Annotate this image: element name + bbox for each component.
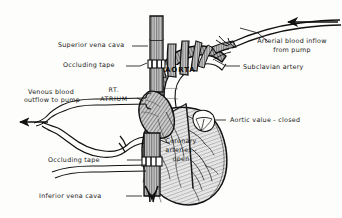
label-arterial-inflow-line1: Arterial blood inflow bbox=[248, 37, 336, 46]
figure-canvas: Superior vena cava Occluding tape Venous… bbox=[0, 0, 342, 218]
label-subclavian-artery: Subclavian artery bbox=[243, 63, 304, 72]
label-arterial-inflow-line2: from pump bbox=[248, 46, 336, 55]
label-venous-outflow-line2: outflow to pump bbox=[9, 96, 95, 105]
leader-occluding-tape-upper bbox=[126, 63, 147, 66]
venous-outflow-arrow bbox=[20, 105, 64, 134]
inferior-vena-cava-vessel bbox=[144, 133, 160, 202]
leader-subclavian-artery bbox=[215, 60, 240, 66]
venous-cannula-tubing bbox=[52, 93, 151, 178]
aortic-valve-cutaway bbox=[193, 110, 215, 131]
label-coronary-line2: arteries - bbox=[160, 146, 202, 155]
label-occluding-tape-upper: Occluding tape bbox=[63, 61, 115, 70]
label-superior-vena-cava: Superior vena cava bbox=[58, 41, 124, 50]
label-rt-atrium-line2: ATRIUM bbox=[93, 95, 135, 104]
label-coronary-line1: Coronary bbox=[160, 137, 202, 146]
label-aortic-valve-closed: Aortic value - closed bbox=[230, 116, 300, 125]
label-inferior-vena-cava: Inferior vena cava bbox=[39, 192, 101, 201]
label-occluding-tape-lower: Occluding tape bbox=[48, 156, 100, 165]
label-aorta: AORTA bbox=[165, 66, 196, 75]
label-coronary-line3: open bbox=[160, 155, 202, 164]
svc-occluding-tape bbox=[148, 60, 165, 68]
superior-vena-cava-vessel bbox=[150, 16, 163, 92]
label-rt-atrium-line1: RT. bbox=[97, 86, 131, 95]
heart-bypass-illustration bbox=[0, 0, 342, 218]
